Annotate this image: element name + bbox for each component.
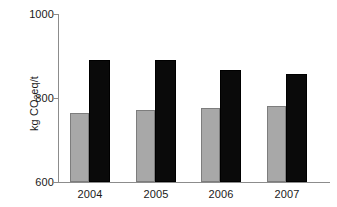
y-axis-title-prefix: kg CO (28, 99, 40, 131)
bar-black-2007 (286, 74, 307, 182)
x-tick-label-2005: 2005 (132, 188, 180, 200)
bar-grey-2006 (201, 108, 220, 182)
x-tick-label-2004: 2004 (66, 188, 114, 200)
bar-grey-2004 (70, 113, 89, 182)
y-tick-label-600: 600 (20, 176, 54, 188)
y-axis-line (58, 14, 59, 183)
y-tick-label-800: 800 (20, 92, 54, 104)
bar-black-2006 (220, 70, 241, 182)
x-tick-label-2007: 2007 (263, 188, 311, 200)
bar-grey-2005 (136, 110, 155, 182)
bar-black-2005 (155, 60, 176, 182)
bar-grey-2007 (267, 106, 286, 182)
bar-chart: kg CO2eq/t 1000 800 600 2004 2005 2006 2… (0, 0, 337, 207)
x-tick-label-2006: 2006 (197, 188, 245, 200)
bar-black-2004 (89, 60, 110, 182)
y-tick-label-1000: 1000 (20, 8, 54, 20)
x-axis-line (58, 182, 330, 183)
